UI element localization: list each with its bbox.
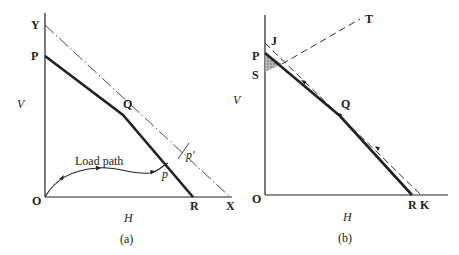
- label-p-b: P: [252, 49, 259, 63]
- label-x: X: [226, 199, 235, 213]
- panel-a: Y P Q V Load path p p′ O R X H (a): [17, 13, 235, 246]
- dashdot-line-yx: [45, 25, 230, 197]
- axis-label-h-b: H: [342, 210, 353, 224]
- arrow-icon: [59, 175, 64, 180]
- caption-a: (a): [120, 232, 133, 246]
- label-k: K: [420, 198, 430, 212]
- label-t: T: [365, 12, 373, 26]
- dashed-line-t: [282, 19, 360, 64]
- axis-label-v: V: [17, 97, 26, 111]
- label-o: O: [32, 194, 41, 208]
- panel-b: J T P S V Q O R K H (b): [233, 12, 448, 245]
- label-q-b: Q: [341, 97, 350, 111]
- figure: Y P Q V Load path p p′ O R X H (a) J T P…: [0, 0, 459, 255]
- load-path-label: Load path: [75, 154, 123, 168]
- label-r: R: [190, 199, 199, 213]
- label-y: Y: [31, 18, 40, 32]
- caption-b: (b): [338, 231, 352, 245]
- label-o-b: O: [252, 192, 261, 206]
- label-r-b: R: [408, 198, 417, 212]
- label-q: Q: [123, 97, 132, 111]
- label-p: P: [31, 49, 38, 63]
- axis-label-v-b: V: [233, 93, 242, 107]
- label-s: S: [252, 68, 259, 82]
- label-p-lower: p: [161, 167, 168, 181]
- label-j: J: [271, 34, 277, 48]
- load-path-curve: [45, 163, 168, 197]
- axis-label-h: H: [123, 211, 134, 225]
- yield-line-pqr-b: [265, 53, 412, 195]
- label-p-prime: p′: [185, 148, 195, 162]
